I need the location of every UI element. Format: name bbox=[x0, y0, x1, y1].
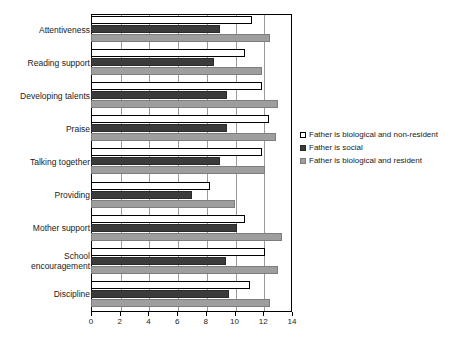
bar-chart: 02468101214 AttentivenessReading support… bbox=[0, 0, 456, 347]
bar bbox=[91, 257, 226, 265]
bar bbox=[91, 281, 250, 289]
x-tick-0 bbox=[91, 312, 92, 316]
x-tick-label-6: 6 bbox=[167, 317, 187, 326]
bar-group bbox=[91, 80, 292, 113]
category-label: Reading support bbox=[0, 59, 90, 69]
bar bbox=[91, 58, 214, 66]
bar bbox=[91, 115, 269, 123]
bar bbox=[91, 49, 245, 57]
legend-swatch-icon bbox=[300, 132, 306, 138]
category-label: Praise bbox=[0, 125, 90, 135]
x-tick-label-14: 14 bbox=[282, 317, 302, 326]
bar bbox=[91, 166, 265, 174]
bar bbox=[91, 16, 252, 24]
legend-swatch-icon bbox=[300, 145, 306, 151]
bar-group bbox=[91, 47, 292, 80]
legend-item: Father is biological and non-resident bbox=[300, 128, 450, 141]
bar bbox=[91, 25, 220, 33]
bar bbox=[91, 100, 278, 108]
x-tick-8 bbox=[206, 312, 207, 316]
x-tick-2 bbox=[120, 312, 121, 316]
bar bbox=[91, 182, 210, 190]
bar bbox=[91, 200, 235, 208]
bar bbox=[91, 91, 227, 99]
legend-item: Father is social bbox=[300, 141, 450, 154]
bar-group bbox=[91, 279, 292, 312]
category-label: School encouragement bbox=[0, 252, 90, 271]
bar bbox=[91, 124, 227, 132]
legend-label: Father is social bbox=[309, 141, 363, 154]
bar bbox=[91, 224, 237, 232]
x-tick-10 bbox=[235, 312, 236, 316]
bar-group bbox=[91, 246, 292, 279]
bar-group bbox=[91, 146, 292, 179]
x-tick-label-0: 0 bbox=[81, 317, 101, 326]
bar bbox=[91, 215, 245, 223]
chart-legend: Father is biological and non-residentFat… bbox=[300, 128, 450, 167]
category-label: Mother support bbox=[0, 224, 90, 234]
x-tick-6 bbox=[177, 312, 178, 316]
x-tick-label-4: 4 bbox=[138, 317, 158, 326]
bar-group bbox=[91, 113, 292, 146]
bar bbox=[91, 290, 229, 298]
bar bbox=[91, 133, 276, 141]
category-label: Discipline bbox=[0, 290, 90, 300]
bar-group bbox=[91, 180, 292, 213]
x-tick-label-12: 12 bbox=[253, 317, 273, 326]
bar bbox=[91, 248, 265, 256]
category-label: Providing bbox=[0, 191, 90, 201]
bar bbox=[91, 82, 262, 90]
x-tick-14 bbox=[292, 312, 293, 316]
bar bbox=[91, 148, 262, 156]
bar bbox=[91, 266, 278, 274]
legend-label: Father is biological and non-resident bbox=[309, 128, 438, 141]
category-label: Attentiveness bbox=[0, 26, 90, 36]
bar bbox=[91, 233, 282, 241]
legend-item: Father is biological and resident bbox=[300, 154, 450, 167]
x-tick-4 bbox=[148, 312, 149, 316]
x-tick-label-10: 10 bbox=[225, 317, 245, 326]
bar bbox=[91, 191, 192, 199]
legend-label: Father is biological and resident bbox=[309, 154, 422, 167]
bar bbox=[91, 67, 262, 75]
legend-swatch-icon bbox=[300, 158, 306, 164]
x-tick-12 bbox=[263, 312, 264, 316]
bar-group bbox=[91, 213, 292, 246]
category-label: Developing talents bbox=[0, 92, 90, 102]
bar-group bbox=[91, 14, 292, 47]
x-tick-label-2: 2 bbox=[110, 317, 130, 326]
bar bbox=[91, 299, 270, 307]
bar bbox=[91, 34, 270, 42]
x-tick-label-8: 8 bbox=[196, 317, 216, 326]
bar bbox=[91, 157, 220, 165]
category-label: Talking together bbox=[0, 158, 90, 168]
